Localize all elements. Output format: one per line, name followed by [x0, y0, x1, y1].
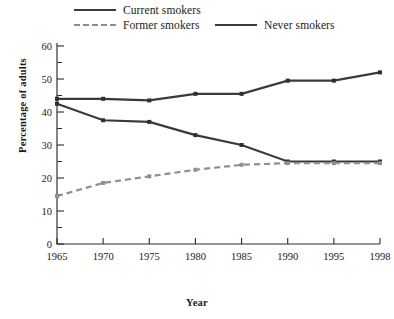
chart-legend: Current smokers Former smokers Never smo…	[0, 0, 394, 36]
data-point-former-smokers-1995	[332, 161, 336, 165]
data-point-former-smokers-1985	[240, 163, 244, 167]
data-point-current-smokers-1980	[193, 133, 197, 137]
line-chart: 0102030405060196519701975198019851990199…	[0, 36, 394, 286]
data-point-never-smokers-1995	[332, 79, 336, 83]
data-point-current-smokers-1965	[55, 102, 59, 106]
y-axis-tick-label: 50	[42, 74, 53, 85]
x-axis-tick-label: 1970	[93, 251, 114, 262]
x-axis-tick-label: 1980	[185, 251, 206, 262]
chart-axes	[57, 43, 380, 244]
data-point-never-smokers-1970	[101, 97, 105, 101]
legend-item-current-smokers: Current smokers	[74, 4, 201, 16]
x-axis-tick-label: 1990	[277, 251, 298, 262]
series-line-current-smokers	[57, 104, 380, 162]
data-point-current-smokers-1985	[240, 143, 244, 147]
plot-area: 0102030405060196519701975198019851990199…	[0, 36, 394, 286]
legend-label-never-smokers: Never smokers	[264, 19, 335, 31]
y-axis-tick-label: 30	[42, 140, 53, 151]
figure: Current smokers Former smokers Never smo…	[0, 0, 394, 319]
x-axis-tick-label: 1975	[139, 251, 160, 262]
data-point-never-smokers-1998	[378, 70, 382, 74]
y-axis-tick-label: 40	[42, 107, 53, 118]
data-point-current-smokers-1975	[147, 120, 151, 124]
x-axis-tick-label: 1985	[231, 251, 252, 262]
y-axis-tick-label: 10	[42, 206, 53, 217]
data-point-former-smokers-1980	[193, 168, 197, 172]
y-axis-title: Percentage of adults	[17, 46, 28, 166]
y-axis-tick-label: 0	[47, 239, 52, 250]
data-point-former-smokers-1990	[286, 161, 290, 165]
data-point-former-smokers-1970	[101, 181, 105, 185]
data-point-former-smokers-1965	[55, 194, 59, 198]
series-line-never-smokers	[57, 72, 380, 100]
legend-label-current-smokers: Current smokers	[123, 4, 201, 16]
series-line-former-smokers	[57, 163, 380, 196]
data-point-never-smokers-1965	[55, 97, 59, 101]
legend-swatch-former-smokers-icon	[74, 24, 116, 26]
data-point-never-smokers-1980	[193, 92, 197, 96]
x-axis-tick-label: 1995	[323, 251, 344, 262]
data-point-never-smokers-1985	[240, 92, 244, 96]
legend-label-former-smokers: Former smokers	[123, 19, 199, 31]
x-axis-title: Year	[0, 297, 394, 308]
legend-item-former-smokers: Former smokers	[74, 19, 199, 31]
y-axis-tick-label: 20	[42, 173, 53, 184]
legend-swatch-never-smokers-icon	[215, 24, 257, 26]
x-axis-tick-label: 1998	[370, 251, 391, 262]
data-point-former-smokers-1975	[147, 174, 151, 178]
legend-item-never-smokers: Never smokers	[215, 19, 335, 31]
data-point-never-smokers-1975	[147, 98, 151, 102]
legend-swatch-current-smokers-icon	[74, 9, 116, 11]
y-axis-tick-label: 60	[42, 41, 53, 52]
data-point-former-smokers-1998	[378, 161, 382, 165]
x-axis-tick-label: 1965	[47, 251, 68, 262]
data-point-current-smokers-1970	[101, 118, 105, 122]
data-point-never-smokers-1990	[286, 79, 290, 83]
